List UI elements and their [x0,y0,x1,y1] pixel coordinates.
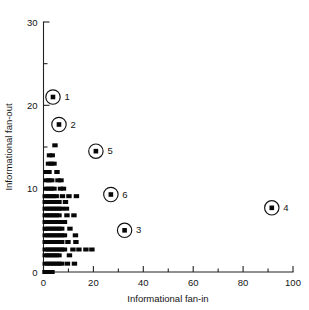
data-point-marker [64,207,69,211]
y-tick-label: 20 [27,100,38,111]
highlighted-point: 6 [104,187,128,201]
data-point-marker [59,227,64,231]
data-point-marker [72,262,77,266]
data-point-marker [59,207,64,211]
data-point-marker [65,240,70,244]
highlight-marker [122,228,127,233]
highlight-label: 3 [136,224,141,235]
axes-group [44,22,294,272]
highlight-label: 1 [64,91,69,102]
highlighted-point: 5 [89,144,113,158]
x-axis-title: Informational fan-in [127,293,208,304]
data-point-marker [66,194,71,198]
highlight-label: 6 [122,189,127,200]
data-point-marker [62,220,67,224]
data-point-marker [46,170,51,174]
highlight-label: 5 [107,145,112,156]
data-point-marker [54,170,59,174]
highlighted-point: 4 [265,201,289,215]
data-point-marker [54,194,59,198]
data-point-marker [59,240,64,244]
data-point-marker [49,270,54,274]
data-point-marker [49,178,54,182]
scatter-plot-figure: 020406080100 0102030 125634 Informationa… [0,0,309,310]
highlight-marker [51,95,56,100]
data-point-marker [65,262,70,266]
highlight-marker [57,122,62,127]
data-point-marker [70,248,75,252]
highlighted-point: 2 [52,117,76,131]
data-point-markers [42,143,94,274]
data-point-marker [73,233,78,237]
data-point-marker [63,200,68,204]
data-point-marker [50,153,55,157]
highlight-marker [269,206,274,211]
data-point-marker [74,194,79,198]
highlight-label: 4 [283,202,288,213]
x-axis-tick-labels: 020406080100 [41,277,301,288]
x-tick-label: 20 [88,277,99,288]
data-point-marker [71,213,76,217]
data-point-marker [62,233,67,237]
highlighted-point-markers: 125634 [46,90,289,238]
data-point-marker [76,248,81,252]
x-tick-label: 40 [138,277,149,288]
y-axis-tick-labels: 0102030 [27,17,38,278]
data-point-marker [64,213,69,217]
y-tick-label: 30 [27,17,38,28]
highlight-label: 2 [70,119,75,130]
x-axis-ticks [44,266,294,272]
x-tick-label: 60 [188,277,199,288]
data-point-marker [73,240,78,244]
data-point-marker [61,187,66,191]
data-point-marker [62,248,67,252]
data-point-marker [59,262,64,266]
x-tick-label: 80 [238,277,249,288]
data-point-marker [56,213,61,217]
data-point-marker [67,253,72,257]
x-tick-label: 0 [41,277,46,288]
y-tick-label: 0 [32,267,37,278]
highlighted-point: 3 [117,223,141,237]
data-point-marker [83,248,88,252]
data-point-marker [60,194,65,198]
data-point-marker [67,227,72,231]
data-point-marker [56,200,61,204]
data-point-marker [51,162,56,166]
data-point-marker [56,253,61,257]
y-axis-title: Informational fan-out [3,103,14,190]
highlight-marker [109,192,114,197]
plot-canvas: 020406080100 0102030 125634 Informationa… [0,0,309,310]
highlighted-point: 1 [46,90,70,104]
data-point-marker [52,143,57,147]
highlight-marker [94,149,99,154]
data-point-marker [51,187,56,191]
data-point-marker [58,178,63,182]
y-tick-label: 10 [27,183,38,194]
data-point-marker [89,248,94,252]
x-tick-label: 100 [285,277,301,288]
